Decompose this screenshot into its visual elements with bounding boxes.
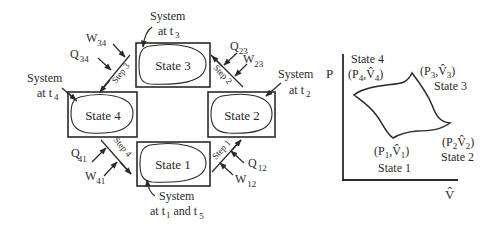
state-4-box: State 4: [68, 92, 137, 137]
q12-label: Q: [248, 156, 257, 170]
svg-text:at t1 and t5: at t1 and t5: [150, 204, 204, 221]
svg-text:W23: W23: [243, 52, 264, 69]
w12-arrow: [220, 163, 233, 175]
w41-label: W: [85, 169, 97, 183]
pv-diagram: P V̂ State 4 (P4,V̂4) (P3,V̂3) State 3 (…: [326, 52, 474, 202]
svg-text:Q41: Q41: [71, 146, 87, 164]
state-3-label: State 3: [155, 58, 191, 73]
state-2-box: State 2: [208, 92, 275, 137]
q23-label: Q: [230, 39, 239, 53]
svg-text:at t3: at t3: [158, 24, 180, 40]
svg-text:W34: W34: [86, 31, 107, 48]
pv-state-2-label: State 2: [441, 150, 474, 164]
w34-arrow: [113, 44, 125, 57]
step-3-arrow: [100, 80, 110, 92]
svg-text:W12: W12: [235, 172, 256, 189]
svg-text:W41: W41: [85, 169, 105, 186]
step-2: Step 2 Q23 W23: [211, 39, 264, 87]
svg-text:System: System: [159, 189, 195, 203]
system-at-t4-callout: System at t4: [27, 71, 77, 102]
state-1-label: State 1: [155, 157, 191, 172]
state-1-box: State 1: [137, 142, 210, 186]
p-axis-label: P: [326, 66, 333, 81]
pv-state-2-coords: (P2V̂2): [442, 135, 474, 151]
step-1: Step 1 Q12 W12: [210, 138, 267, 189]
svg-text:Q12: Q12: [248, 156, 267, 173]
pv-state-3-label: State 3: [434, 79, 467, 93]
svg-text:System: System: [278, 67, 314, 81]
svg-text:System: System: [150, 9, 186, 23]
system-at-t2-callout: System at t2: [266, 67, 314, 99]
pv-state-1-coords: (P1,V̂1): [374, 144, 409, 160]
q34-label: Q: [70, 47, 79, 61]
w12-label: W: [235, 172, 247, 186]
svg-text:Q34: Q34: [70, 47, 89, 64]
svg-text:System: System: [27, 71, 63, 85]
q34-arrow: [98, 58, 111, 70]
system-at-t3-callout: System at t3: [143, 9, 186, 47]
pv-state-4-coords: (P4,V̂4): [348, 67, 383, 83]
q12-arrow: [231, 151, 244, 163]
pv-state-1-label: State 1: [378, 161, 411, 175]
w41-arrow: [104, 162, 117, 176]
step-4-arrow: [120, 162, 131, 174]
step-1-label: Step 1: [210, 138, 233, 162]
step-1-arrow: [232, 140, 241, 150]
step-3: Step 3 W34 Q34: [70, 31, 132, 92]
step-3-label: Step 3: [110, 61, 132, 85]
pv-state-3-coords: (P3,V̂3): [420, 64, 455, 80]
v-axis-label: V̂: [445, 187, 455, 202]
pv-state-4-label: State 4: [351, 52, 384, 66]
step-2-label: Step 2: [212, 63, 235, 87]
step-4: Step 4 Q41 W41: [71, 135, 134, 186]
svg-text:at t2: at t2: [289, 83, 311, 99]
q41-arrow: [92, 148, 106, 162]
state-3-box: State 3: [136, 43, 210, 87]
state-4-label: State 4: [85, 108, 121, 123]
state-2-label: State 2: [224, 108, 260, 123]
w34-label: W: [86, 31, 98, 45]
svg-text:at t4: at t4: [37, 86, 59, 102]
w23-label: W: [243, 52, 255, 66]
thermodynamic-cycle-figure: State 3 State 4 State 2 State 1 Step 3 W…: [0, 0, 501, 233]
q23-arrow: [224, 53, 237, 65]
